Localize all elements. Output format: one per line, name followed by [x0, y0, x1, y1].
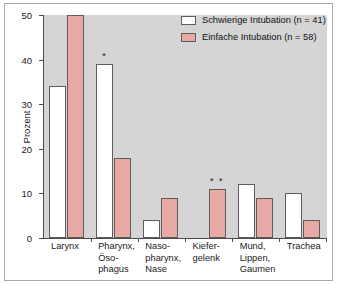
x-axis-label-2: Naso- pharynx, Nase	[145, 241, 181, 276]
x-tick-2	[138, 238, 139, 242]
y-tick-label-10: 10	[21, 190, 32, 200]
y-tick-0: 0	[39, 238, 44, 239]
legend-label-0: Schwierige Intubation (n = 41)	[202, 14, 326, 28]
bar-einfach-5	[303, 220, 320, 238]
bar-einfach-2	[161, 198, 178, 238]
bar-schwierig-1	[96, 64, 113, 238]
bar-einfach-3	[209, 189, 226, 238]
y-tick-50: 50	[39, 15, 44, 16]
x-axis-label-5: Trachea	[287, 241, 321, 253]
x-axis-label-1: Pharynx, Öso- phagus	[98, 241, 135, 276]
y-axis-title: Prozent	[21, 110, 32, 143]
y-tick-30: 30	[39, 104, 44, 105]
bar-schwierig-5	[285, 193, 302, 238]
significance-marker-1: *	[102, 52, 107, 61]
bar-einfach-4	[256, 198, 273, 238]
y-tick-label-40: 40	[21, 56, 32, 66]
legend-item-1: Einfache Intubation (n = 58)	[181, 31, 326, 45]
x-axis-label-4: Mund, Lippen, Gaumen	[240, 241, 276, 276]
legend-swatch-white	[181, 16, 196, 25]
y-tick-label-0: 0	[27, 234, 32, 244]
bar-schwierig-0	[49, 86, 66, 238]
y-tick-40: 40	[39, 60, 44, 61]
y-tick-label-20: 20	[21, 145, 32, 155]
figure-frame: Prozent 50 40 30 20 10 0 ** * LarynxPhar…	[4, 3, 333, 281]
x-tick-4	[232, 238, 233, 242]
x-tick-6	[326, 238, 327, 242]
chart-legend: Schwierige Intubation (n = 41)Einfache I…	[181, 14, 326, 47]
legend-item-0: Schwierige Intubation (n = 41)	[181, 14, 326, 28]
x-tick-3	[185, 238, 186, 242]
plot-area: Prozent 50 40 30 20 10 0 ** *	[43, 15, 327, 239]
x-axis-label-3: Kiefer- gelenk	[193, 241, 220, 264]
y-tick-10: 10	[39, 193, 44, 194]
y-tick-20: 20	[39, 149, 44, 150]
x-axis-label-0: Larynx	[51, 241, 79, 253]
bar-schwierig-4	[238, 184, 255, 238]
significance-marker-2: * *	[210, 177, 224, 186]
legend-label-1: Einfache Intubation (n = 58)	[202, 31, 316, 45]
bar-einfach-0	[67, 15, 84, 238]
x-tick-5	[279, 238, 280, 242]
bar-einfach-1	[114, 158, 131, 238]
y-tick-label-30: 30	[21, 100, 32, 110]
y-tick-label-50: 50	[21, 11, 32, 21]
bar-schwierig-2	[143, 220, 160, 238]
legend-swatch-pink	[181, 33, 196, 42]
x-tick-1	[91, 238, 92, 242]
